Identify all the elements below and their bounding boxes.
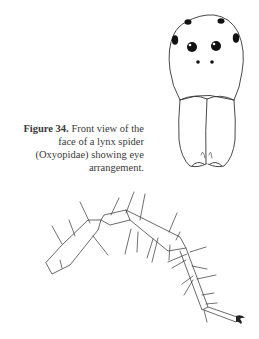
spider-leg-illustration <box>0 170 259 339</box>
figure-label: Figure 34. <box>23 123 68 134</box>
figure-caption: Figure 34. Front view of the face of a l… <box>4 122 144 174</box>
